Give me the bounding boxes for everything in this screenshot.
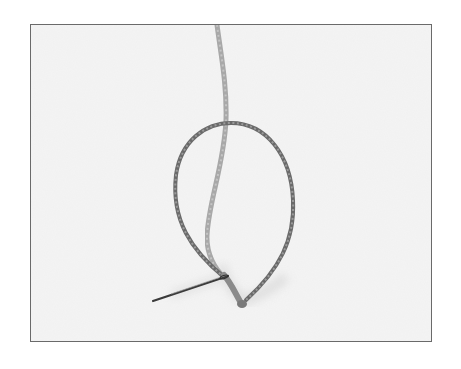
needle-thread-photo (31, 25, 432, 342)
photo-frame (30, 24, 432, 342)
image-alt-text: Needle threaded with a looped strand of … (0, 0, 1, 1)
